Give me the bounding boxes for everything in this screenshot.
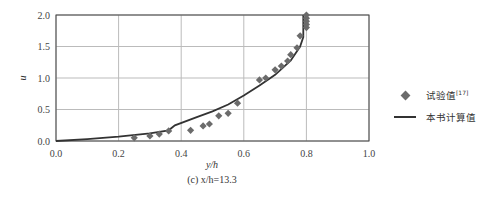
data-point-diamond [215, 112, 222, 119]
y-axis-label: u [17, 76, 28, 81]
x-axis-label: y/h [205, 159, 218, 170]
data-point-diamond [206, 120, 213, 127]
y-tick-label: 2.0 [38, 10, 51, 21]
y-tick-label: 0.5 [38, 104, 51, 115]
x-tick-label: 0.6 [238, 148, 251, 159]
grid [56, 15, 369, 141]
y-tick-label: 1.5 [38, 41, 51, 52]
x-axis-ticks: 0.00.20.40.60.81.0 [50, 148, 376, 159]
data-point-diamond [200, 122, 207, 129]
legend: 试验值[17] 本书计算值 [392, 84, 476, 128]
y-tick-label: 0.0 [38, 136, 51, 147]
y-tick-label: 1.0 [38, 73, 51, 84]
data-point-diamond [256, 76, 263, 83]
line-swatch-icon [392, 116, 418, 118]
x-tick-label: 0.2 [112, 148, 125, 159]
data-point-diamond [278, 62, 285, 69]
legend-item-calculated: 本书计算值 [392, 106, 476, 128]
x-tick-label: 0.0 [50, 148, 63, 159]
data-point-diamond [225, 110, 232, 117]
legend-label: 试验值[17] [426, 88, 468, 102]
y-axis-ticks: 0.00.51.01.52.0 [38, 10, 51, 147]
legend-label: 本书计算值 [426, 110, 476, 124]
x-tick-label: 0.4 [175, 148, 188, 159]
data-point-diamond [284, 57, 291, 64]
chart-caption: (c) x/h=13.3 [187, 174, 237, 186]
legend-item-experimental: 试验值[17] [392, 84, 476, 106]
x-tick-label: 1.0 [363, 148, 376, 159]
data-point-diamond [187, 127, 194, 134]
x-tick-label: 0.8 [300, 148, 313, 159]
diamond-marker-icon [392, 92, 418, 99]
data-point-diamond [293, 44, 300, 51]
experimental-points [131, 11, 310, 141]
